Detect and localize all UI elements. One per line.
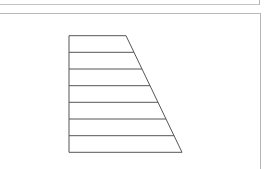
trapezoid-shape xyxy=(69,36,182,153)
trapezoid-outline xyxy=(69,36,182,153)
trapezoid-diagram xyxy=(0,0,268,169)
